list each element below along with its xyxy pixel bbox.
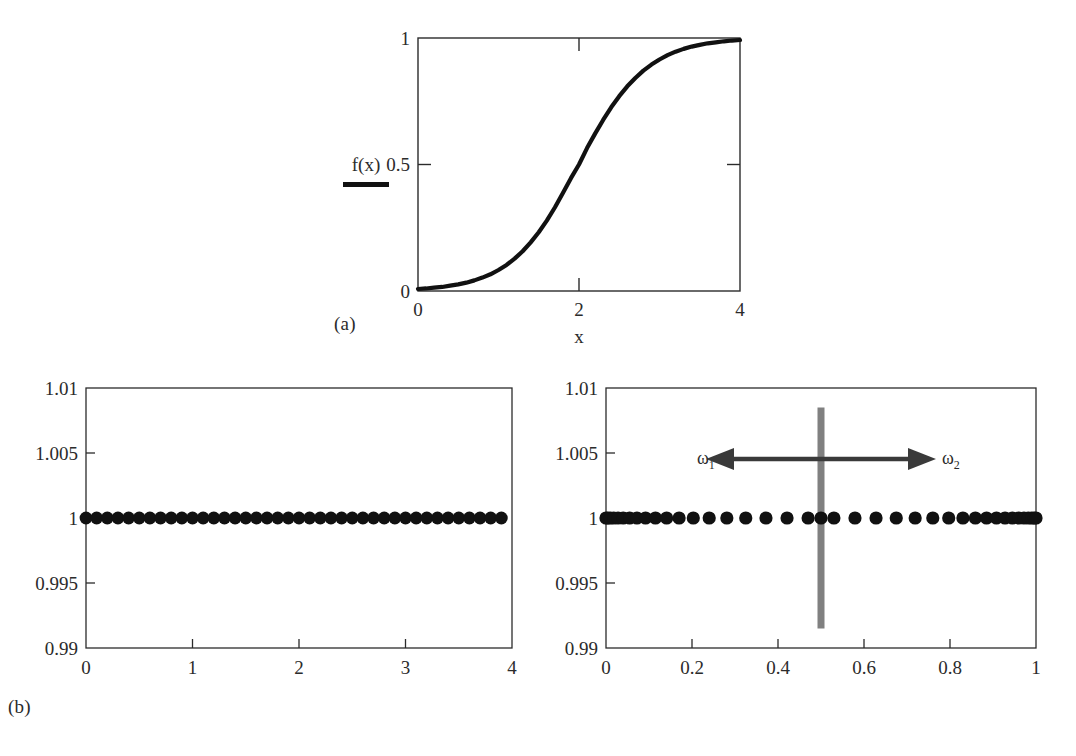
panel-b-left-xtick-2: 2: [294, 657, 304, 678]
data-point: [687, 511, 700, 524]
panel-b-left-ytick-4: 1.01: [45, 378, 78, 399]
panel-b-right-ytick-1: 0.995: [555, 573, 598, 594]
panel-b-left-plot: 1.01 1.005 1 0.995 0.99 0 1 2 3 4: [10, 370, 540, 690]
data-point: [660, 511, 673, 524]
omega-1-symbol: ω: [697, 448, 709, 468]
caption-b: (b): [8, 696, 31, 718]
panel-b-right-xtick-2: 0.4: [766, 657, 790, 678]
data-point: [956, 511, 969, 524]
panel-b-left-xtick-4: 4: [507, 657, 517, 678]
panel-a-xtick-2: 4: [735, 299, 745, 320]
panel-a-legend-label: f(x): [333, 155, 399, 175]
omega-2-label: ω2: [942, 448, 960, 473]
panel-b-right-ytick-0: 0.99: [565, 638, 598, 659]
caption-a: (a): [334, 313, 356, 335]
panel-a-ytick-2: 1: [401, 28, 411, 49]
panel-b-left-ytick-1: 0.995: [35, 573, 78, 594]
panel-b-left-xtick-1: 1: [188, 657, 198, 678]
panel-a-xtick-1: 2: [574, 299, 584, 320]
panel-b-left-ytick-0: 0.99: [45, 638, 78, 659]
panel-b-right-xtick-5: 1: [1031, 657, 1041, 678]
panel-b-right-plot: 1.01 1.005 1 0.995 0.99 0 0.2 0.4 0.6 0.…: [530, 370, 1070, 690]
panel-b-left: 1.01 1.005 1 0.995 0.99 0 1 2 3 4: [10, 370, 540, 690]
panel-b-right-xtick-1: 0.2: [680, 657, 704, 678]
omega-2-subscript: 2: [954, 458, 960, 472]
panel-a-legend-swatch: [343, 182, 389, 187]
data-point: [495, 512, 508, 525]
data-point: [802, 511, 815, 524]
figure-root: 1 0.5 0 0 2 4 x f(x) (a): [0, 0, 1076, 756]
panel-b-right-xtick-0: 0: [601, 657, 611, 678]
panel-b-right-xtick-4: 0.8: [938, 657, 962, 678]
data-point: [739, 511, 752, 524]
data-point: [673, 511, 686, 524]
panel-b-left-ytick-3: 1.005: [35, 443, 78, 464]
data-point: [890, 511, 903, 524]
data-point: [780, 511, 793, 524]
data-point: [942, 511, 955, 524]
panel-b-right-points: [599, 511, 1042, 524]
panel-b-right-xtick-3: 0.6: [852, 657, 876, 678]
panel-a-legend: f(x): [333, 155, 399, 187]
data-point: [848, 511, 861, 524]
data-point: [814, 511, 827, 524]
omega-1-subscript: 1: [709, 458, 715, 472]
panel-b-left-xtick-0: 0: [81, 657, 91, 678]
panel-b-left-ticks: [86, 453, 406, 648]
panel-b-left-points: [80, 512, 508, 525]
data-point: [909, 511, 922, 524]
data-point: [926, 511, 939, 524]
data-point: [720, 511, 733, 524]
omega-2-symbol: ω: [942, 448, 954, 468]
data-point: [703, 511, 716, 524]
panel-a-xtick-0: 0: [413, 299, 423, 320]
panel-a-xlabel: x: [574, 326, 584, 347]
panel-b-right-ytick-2: 1: [589, 508, 599, 529]
data-point: [1029, 511, 1042, 524]
panel-b-left-xtick-3: 3: [401, 657, 411, 678]
data-point: [759, 511, 772, 524]
panel-b-right-ticks: [606, 453, 950, 648]
data-point: [827, 511, 840, 524]
panel-b-right: 1.01 1.005 1 0.995 0.99 0 0.2 0.4 0.6 0.…: [530, 370, 1070, 690]
panel-b-left-ytick-2: 1: [69, 508, 79, 529]
panel-b-right-ytick-4: 1.01: [565, 378, 598, 399]
data-point: [869, 511, 882, 524]
panel-a-ytick-0: 0: [401, 281, 411, 302]
panel-b-right-ytick-3: 1.005: [555, 443, 598, 464]
omega-1-label: ω1: [697, 448, 715, 473]
panel-a-curve: [418, 40, 740, 289]
